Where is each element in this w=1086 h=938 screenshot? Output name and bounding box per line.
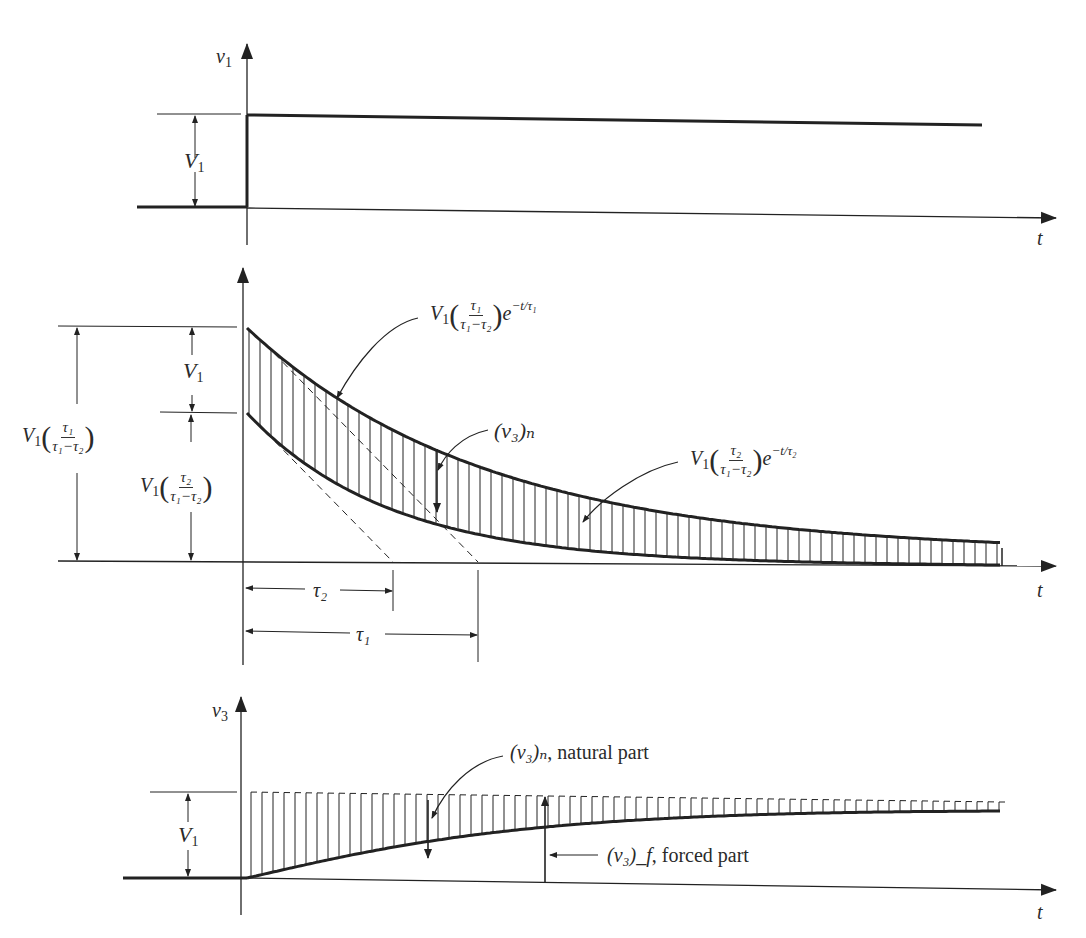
leader-natural — [432, 756, 503, 818]
tau1-dim-right — [385, 634, 477, 635]
t-axis-bottom — [247, 878, 1056, 890]
V1-step-label: V1 — [184, 150, 204, 175]
tau2-ratio-label: V1(τ₂τ₁−τ₂) — [140, 470, 213, 505]
v1-axis-label: v1 — [216, 46, 232, 70]
total-ratio-label: V1(τ₁τ₁−τ₂) — [22, 420, 95, 455]
t-label-mid: t — [1037, 580, 1043, 600]
tau2-label: τ₂ — [313, 580, 327, 600]
leader-vn — [438, 430, 488, 470]
panel-output — [123, 697, 1056, 915]
V1-dim-label: V1 — [183, 360, 203, 385]
figure-canvas — [0, 0, 1086, 938]
v1-step-level — [247, 115, 982, 125]
natural-part-label: (v₃)ₙ, natural part — [510, 742, 649, 762]
tangent-tau2 — [250, 416, 393, 562]
tau2-dim-left — [246, 588, 305, 589]
tau1-dim-left — [246, 631, 350, 633]
lower-curve-label: V1(τ₂τ₁−τ₂)e−t/τ₂ — [690, 443, 797, 478]
tau2-dim-right — [340, 590, 392, 591]
upper-curve-label: V1(τ₁τ₁−τ₂)e−t/τ₁ — [430, 298, 537, 333]
vn-label: (v₃)ₙ — [494, 420, 535, 442]
top-guide — [58, 326, 237, 327]
leader-upper — [337, 318, 418, 398]
forced-part-label: (v₃)_f, forced part — [607, 845, 749, 865]
t-label-top: t — [1037, 228, 1043, 248]
panel-input — [137, 44, 1056, 245]
panel-components — [58, 268, 1056, 665]
t-label-bottom: t — [1037, 902, 1043, 922]
V1-final-label: V1 — [178, 824, 198, 849]
tau1-label: τ₁ — [356, 624, 370, 644]
mid-guide — [160, 412, 237, 413]
v3-axis-label: v3 — [212, 700, 228, 724]
t-axis-top — [247, 208, 1056, 218]
